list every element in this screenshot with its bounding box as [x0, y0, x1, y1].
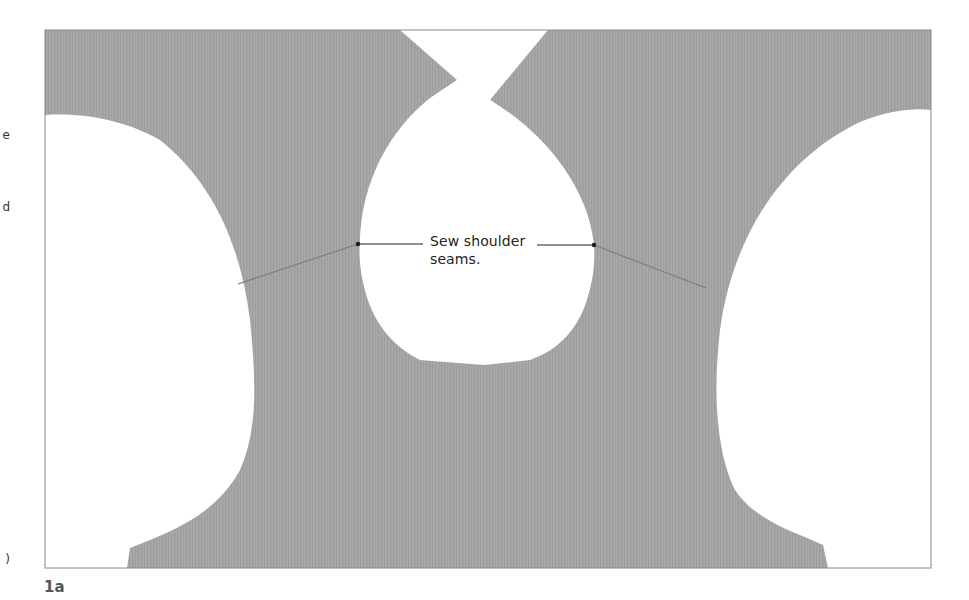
callout-line-1: Sew shoulder: [430, 232, 525, 250]
callout-dot-right: [592, 243, 597, 248]
callout-label: Sew shoulder seams.: [430, 232, 525, 268]
fabric-pieces: [45, 30, 931, 568]
callout-line-2: seams.: [430, 250, 525, 268]
figure-caption: 1a: [44, 578, 65, 596]
garment-photo: [0, 0, 969, 600]
callout-dot-left: [356, 242, 361, 247]
